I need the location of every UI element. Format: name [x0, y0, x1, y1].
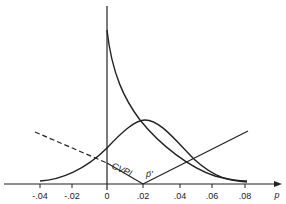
tick-label: .08 [239, 191, 252, 201]
tick-label: 0 [104, 191, 109, 201]
bell-curve [40, 120, 247, 182]
x-axis-arrow-icon [274, 181, 282, 187]
rising-line [143, 131, 248, 184]
tick-label: -.04 [32, 191, 48, 201]
cvpi-label: CVPI [110, 161, 134, 179]
tick-label: .02 [137, 191, 150, 201]
decreasing-curve [107, 30, 247, 181]
tick-label: .04 [174, 191, 187, 201]
tick-label: -.02 [64, 191, 80, 201]
pbar-label: p̄' [145, 169, 153, 179]
chart-canvas: -.04 -.02 0 .02 .04 .06 .08 p CVPI p̄' [0, 0, 286, 204]
cvpi-dashed-line [35, 132, 107, 163]
tick-label: .06 [206, 191, 219, 201]
x-ticks [40, 184, 245, 188]
x-axis-label: p [273, 190, 279, 200]
